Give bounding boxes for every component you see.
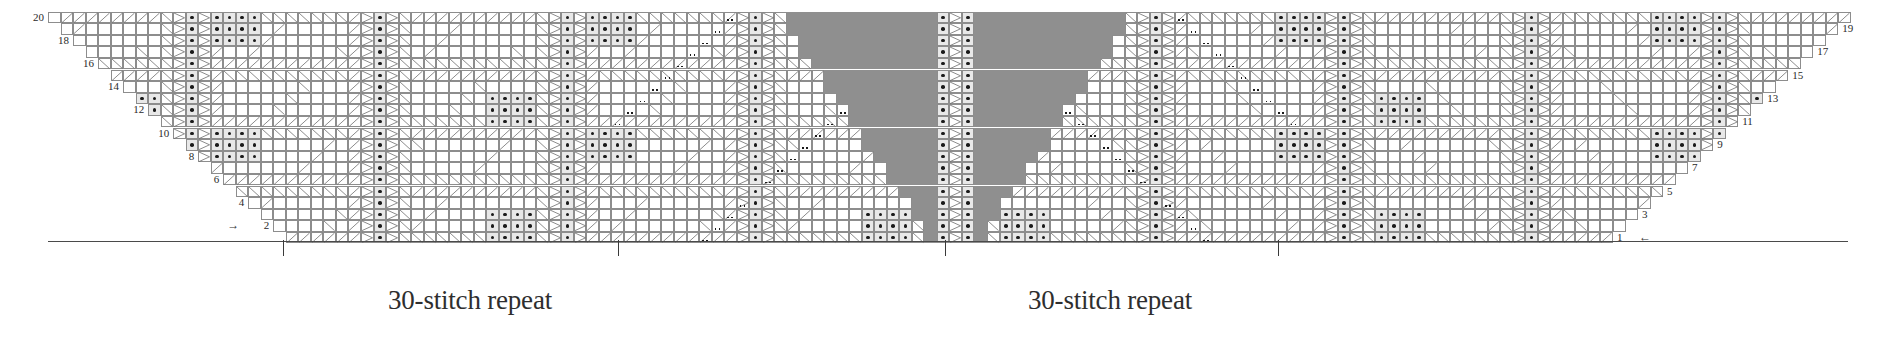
- chart-cell: [1638, 186, 1651, 198]
- chart-cell: [812, 151, 825, 163]
- chart-cell: [1225, 104, 1238, 116]
- chart-cell: [586, 232, 599, 244]
- chart-cell: [1663, 81, 1676, 93]
- purl-stitch-dot: [1718, 97, 1722, 101]
- chart-cell: [399, 58, 412, 70]
- chart-cell: [449, 232, 462, 244]
- make-one-marker: [719, 228, 721, 230]
- chart-cell: [1463, 197, 1476, 209]
- purl-stitch-dot: [1342, 62, 1346, 66]
- chart-cell: [687, 174, 700, 186]
- purl-stitch-dot: [941, 132, 945, 136]
- chart-cell: [824, 46, 837, 58]
- chart-cell: [211, 93, 224, 105]
- chart-cell: [949, 139, 962, 151]
- chart-cell: [1112, 174, 1125, 186]
- chart-cell: [1050, 186, 1063, 198]
- chart-cell: [399, 232, 412, 244]
- chart-cell: [899, 23, 912, 35]
- chart-cell: [311, 116, 324, 128]
- purl-stitch-dot: [628, 132, 632, 136]
- purl-stitch-dot: [566, 132, 570, 136]
- chart-cell: [524, 209, 537, 221]
- purl-stitch-dot: [190, 16, 194, 20]
- chart-cell: [737, 104, 750, 116]
- chart-cell: [1388, 93, 1401, 105]
- chart-cell: [937, 116, 950, 128]
- chart-cell: [749, 81, 762, 93]
- chart-cell: [1137, 186, 1150, 198]
- chart-cell: [411, 139, 424, 151]
- chart-cell: [1162, 46, 1175, 58]
- chart-cell: [699, 104, 712, 116]
- chart-row: [211, 162, 1688, 174]
- make-one-marker: [831, 124, 833, 126]
- chart-cell: [1350, 209, 1363, 221]
- chart-cell: [649, 58, 662, 70]
- chart-cell: [1150, 220, 1163, 232]
- chart-cell: [1738, 70, 1751, 82]
- chart-cell: [1212, 232, 1225, 244]
- chart-cell: [661, 46, 674, 58]
- chart-cell: [874, 81, 887, 93]
- chart-cell: [849, 128, 862, 140]
- chart-cell: [661, 12, 674, 24]
- row-number-left-10: 10: [147, 128, 169, 140]
- chart-cell: [1575, 116, 1588, 128]
- chart-cell: [1200, 23, 1213, 35]
- chart-cell: [173, 81, 186, 93]
- chart-cell: [236, 58, 249, 70]
- chart-cell: [1225, 197, 1238, 209]
- chart-cell: [1500, 23, 1513, 35]
- chart-cell: [1350, 12, 1363, 24]
- chart-cell: [812, 174, 825, 186]
- chart-cell: [486, 209, 499, 221]
- chart-cell: [962, 162, 975, 174]
- chart-cell: [499, 23, 512, 35]
- chart-cell: [1413, 232, 1426, 244]
- purl-stitch-dot: [1154, 27, 1158, 31]
- chart-cell: [1363, 151, 1376, 163]
- chart-cell: [1450, 12, 1463, 24]
- purl-stitch-dot: [591, 16, 595, 20]
- chart-cell: [799, 93, 812, 105]
- chart-cell: [749, 35, 762, 47]
- chart-cell: [424, 151, 437, 163]
- chart-cell: [186, 58, 199, 70]
- chart-cell: [724, 23, 737, 35]
- purl-stitch-dot: [966, 85, 970, 89]
- chart-cell: [386, 186, 399, 198]
- chart-cell: [687, 93, 700, 105]
- chart-cell: [1287, 139, 1300, 151]
- chart-cell: [499, 104, 512, 116]
- make-one-marker: [652, 89, 654, 91]
- chart-cell: [687, 104, 700, 116]
- chart-cell: [787, 232, 800, 244]
- chart-cell: [348, 116, 361, 128]
- purl-stitch-dot: [966, 120, 970, 124]
- purl-stitch-dot: [1668, 27, 1672, 31]
- chart-cell: [887, 81, 900, 93]
- chart-cell: [774, 70, 787, 82]
- chart-cell: [1550, 209, 1563, 221]
- chart-cell: [849, 12, 862, 24]
- chart-cell: [461, 186, 474, 198]
- make-one-marker: [1191, 228, 1193, 230]
- chart-cell: [223, 46, 236, 58]
- chart-cell: [699, 23, 712, 35]
- purl-stitch-dot: [1405, 97, 1409, 101]
- chart-cell: [1488, 162, 1501, 174]
- chart-cell: [837, 174, 850, 186]
- chart-cell: [1000, 128, 1013, 140]
- chart-cell: [1701, 93, 1714, 105]
- purl-stitch-dot: [616, 16, 620, 20]
- chart-cell: [549, 220, 562, 232]
- make-one-marker: [1257, 89, 1259, 91]
- chart-cell: [1563, 23, 1576, 35]
- chart-cell: [1676, 116, 1689, 128]
- chart-cell: [1463, 209, 1476, 221]
- chart-cell: [273, 58, 286, 70]
- chart-cell: [1438, 104, 1451, 116]
- chart-cell: [1025, 70, 1038, 82]
- chart-cell: [887, 232, 900, 244]
